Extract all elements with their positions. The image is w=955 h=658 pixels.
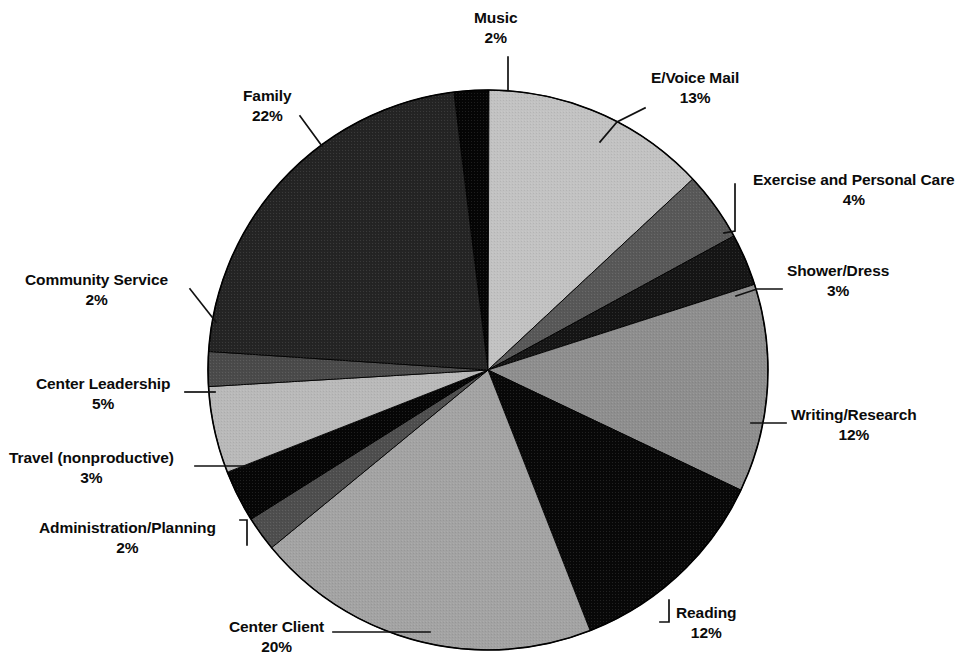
- pie-label-travel-nonproductive: Travel (nonproductive) 3%: [9, 448, 174, 488]
- pie-label-evoice-mail: E/Voice Mail 13%: [651, 68, 739, 108]
- pie-label-music: Music 2%: [474, 8, 517, 48]
- pie-label-community-service: Community Service 2%: [25, 270, 168, 310]
- pie-label-writing-research-name: Writing/Research: [791, 405, 917, 425]
- pie-label-community-service-percent: 2%: [25, 290, 168, 310]
- pie-label-evoice-mail-percent: 13%: [651, 88, 739, 108]
- pie-label-reading-name: Reading: [676, 603, 736, 623]
- pie-label-administration-planning-percent: 2%: [39, 538, 216, 558]
- pie-label-reading: Reading 12%: [676, 603, 736, 643]
- pie-chart-svg: [0, 0, 955, 658]
- pie-label-administration-planning-name: Administration/Planning: [39, 518, 216, 538]
- pie-label-travel-nonproductive-name: Travel (nonproductive): [9, 448, 174, 468]
- pie-label-center-leadership: Center Leadership 5%: [36, 374, 170, 414]
- leader-line-reading: [660, 600, 669, 622]
- pie-label-reading-percent: 12%: [676, 623, 736, 643]
- pie-label-exercise-and-personal-care-name: Exercise and Personal Care: [753, 170, 955, 190]
- pie-label-shower-dress-name: Shower/Dress: [787, 261, 889, 281]
- pie-label-center-client-name: Center Client: [229, 617, 324, 637]
- leader-line-admin: [240, 520, 247, 545]
- pie-label-writing-research: Writing/Research 12%: [791, 405, 917, 445]
- pie-label-exercise-and-personal-care: Exercise and Personal Care 4%: [753, 170, 955, 210]
- leader-line-community: [190, 289, 216, 322]
- pie-label-center-client-percent: 20%: [229, 637, 324, 657]
- pie-label-travel-nonproductive-percent: 3%: [9, 468, 174, 488]
- pie-label-shower-dress: Shower/Dress 3%: [787, 261, 889, 301]
- pie-label-writing-research-percent: 12%: [791, 425, 917, 445]
- pie-label-music-name: Music: [474, 8, 517, 28]
- pie-label-exercise-and-personal-care-percent: 4%: [753, 190, 955, 210]
- pie-dither-overlay: [208, 90, 768, 650]
- pie-label-evoice-mail-name: E/Voice Mail: [651, 68, 739, 88]
- pie-label-music-percent: 2%: [474, 28, 517, 48]
- pie-label-center-leadership-name: Center Leadership: [36, 374, 170, 394]
- pie-label-administration-planning: Administration/Planning 2%: [39, 518, 216, 558]
- pie-label-family-name: Family: [243, 86, 292, 106]
- pie-label-center-client: Center Client 20%: [229, 617, 324, 657]
- pie-label-community-service-name: Community Service: [25, 270, 168, 290]
- pie-label-shower-dress-percent: 3%: [787, 281, 889, 301]
- pie-label-family-percent: 22%: [243, 106, 292, 126]
- leader-line-family: [300, 116, 322, 146]
- pie-chart-figure: Music 2% E/Voice Mail 13% Exercise and P…: [0, 0, 955, 658]
- pie-label-center-leadership-percent: 5%: [36, 394, 170, 414]
- pie-label-family: Family 22%: [243, 86, 292, 126]
